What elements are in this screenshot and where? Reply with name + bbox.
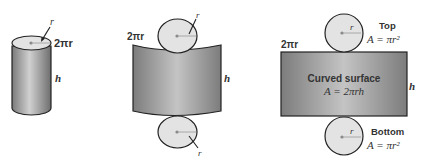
circumference-label: 2πr [54, 37, 74, 49]
curved-surface [133, 45, 221, 116]
cylinder-body [12, 46, 51, 115]
top-radius-label: r [350, 22, 354, 32]
surface-title: Curved surface [308, 73, 381, 84]
bottom-title: Bottom [371, 126, 404, 137]
bottom-formula: A = πr² [366, 139, 400, 151]
bottom-radius-label: r [350, 126, 354, 136]
circumference-label: 2πr [281, 39, 298, 50]
height-label: h [409, 80, 415, 92]
radius-label: r [50, 16, 54, 27]
figure-net: r r 2πr h Top A = πr² Curved surface A =… [281, 14, 415, 155]
figure-unrolling: r r 2πr h [127, 10, 230, 158]
top-formula: A = πr² [366, 33, 400, 45]
bottom-disk [325, 117, 363, 155]
top-title: Top [379, 20, 396, 31]
figure-cylinder: r 2πr h [12, 16, 74, 115]
top-radius-label: r [196, 10, 200, 20]
surface-formula: A = 2πrh [323, 85, 365, 97]
cylinder-net-diagram: r 2πr h r r 2πr h r r 2πr h Top A = πr² … [0, 0, 424, 167]
curved-surface-rect [281, 52, 407, 116]
circumference-label: 2πr [127, 31, 144, 42]
height-label: h [224, 72, 230, 84]
height-label: h [55, 72, 61, 84]
bottom-radius-label: r [198, 148, 202, 158]
